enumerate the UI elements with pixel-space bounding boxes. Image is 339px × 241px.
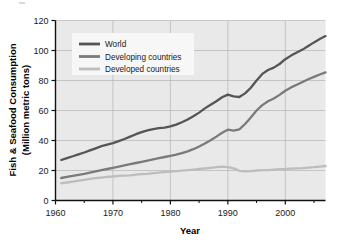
scan-artifact xyxy=(19,2,25,4)
y-tick-label: 60 xyxy=(38,106,48,116)
x-tick-label: 1960 xyxy=(45,208,65,218)
y-tick-label: 80 xyxy=(38,76,48,86)
x-tick-label: 1990 xyxy=(218,208,238,218)
y-tick-label: 0 xyxy=(43,196,48,206)
line-chart: 19601970198019902000 020406080100120 Yea… xyxy=(0,0,339,241)
x-tick-label: 2000 xyxy=(275,208,295,218)
legend-label-0: World xyxy=(105,40,127,49)
x-tick-label: 1970 xyxy=(103,208,123,218)
y-axis-title-line2: (Million metric tons) xyxy=(20,65,31,155)
legend-label-1: Developing countries xyxy=(105,53,181,62)
y-tick-label: 40 xyxy=(38,136,48,146)
chart-figure: 19601970198019902000 020406080100120 Yea… xyxy=(0,0,339,241)
chart-legend: WorldDeveloping countriesDeveloped count… xyxy=(72,33,194,75)
x-axis-title: Year xyxy=(180,225,200,236)
legend-label-2: Developed countries xyxy=(105,65,180,74)
y-tick-label: 100 xyxy=(33,46,48,56)
y-axis-title-line1: Fish & Seafood Consumption xyxy=(7,43,18,176)
y-tick-label: 20 xyxy=(38,166,48,176)
y-tick-label: 120 xyxy=(33,16,48,26)
x-tick-label: 1980 xyxy=(160,208,180,218)
